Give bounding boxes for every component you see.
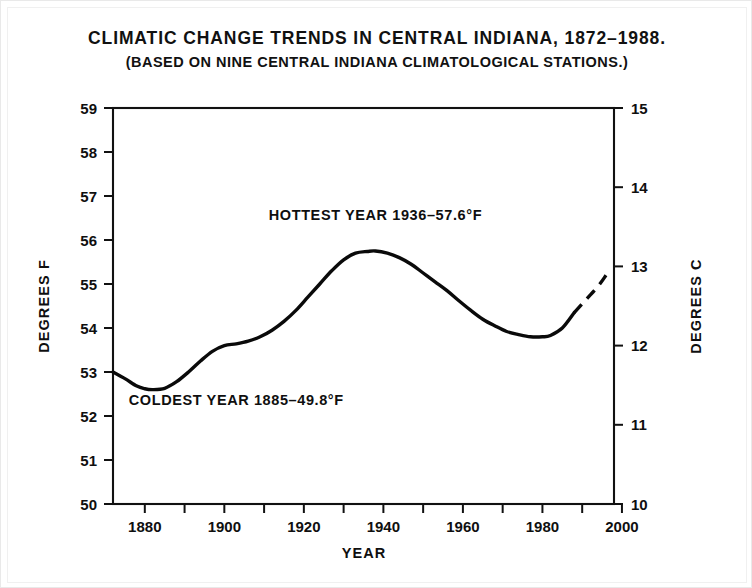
annotation-hottest-year: HOTTEST YEAR 1936–57.6°F <box>269 207 482 223</box>
x-axis-title: YEAR <box>342 545 387 561</box>
x-tick-label: 1920 <box>287 518 320 535</box>
y-tick-label-left: 55 <box>80 276 97 293</box>
climate-trend-chart: 1880190019201940196019802000 50515253545… <box>1 1 752 588</box>
y-tick-label-left: 56 <box>80 232 97 249</box>
y-tick-label-right: 12 <box>631 337 648 354</box>
x-tick-label: 1880 <box>128 518 161 535</box>
x-axis-tick-labels: 1880190019201940196019802000 <box>128 518 639 535</box>
y-axis-left-title: DEGREES F <box>36 259 52 353</box>
x-tick-label: 1900 <box>208 518 241 535</box>
y-tick-label-right: 14 <box>631 179 648 196</box>
y-tick-label-left: 51 <box>80 452 97 469</box>
trend-line-observed <box>113 251 574 390</box>
plot-frame <box>113 108 614 504</box>
y-tick-label-right: 11 <box>631 416 647 433</box>
y-tick-label-left: 50 <box>80 496 97 513</box>
y-tick-label-right: 13 <box>631 258 648 275</box>
y-tick-label-left: 54 <box>80 320 97 337</box>
y-axis-right-tick-labels: 101112131415 <box>631 100 648 513</box>
data-series-group <box>113 251 606 390</box>
y-tick-label-left: 52 <box>80 408 97 425</box>
y-tick-label-left: 58 <box>80 144 97 161</box>
x-tick-label: 1960 <box>446 518 479 535</box>
annotation-coldest-year: COLDEST YEAR 1885–49.8°F <box>129 392 344 408</box>
x-tick-label: 1940 <box>367 518 400 535</box>
y-axis-right-title: DEGREES C <box>688 258 704 353</box>
trend-line-projected <box>574 275 606 312</box>
y-axis-right-ticks <box>614 108 623 504</box>
axis-titles: DEGREES F DEGREES C YEAR <box>36 258 704 561</box>
chart-page: CLIMATIC CHANGE TRENDS IN CENTRAL INDIAN… <box>0 0 752 588</box>
x-tick-label: 2000 <box>605 518 638 535</box>
y-tick-label-left: 57 <box>80 188 97 205</box>
y-axis-left-ticks <box>104 108 113 504</box>
x-tick-label: 1980 <box>526 518 559 535</box>
y-tick-label-left: 53 <box>80 364 97 381</box>
y-axis-left-tick-labels: 50515253545556575859 <box>80 100 97 513</box>
y-tick-label-left: 59 <box>80 100 97 117</box>
x-axis-ticks <box>145 504 622 513</box>
y-tick-label-right: 15 <box>631 100 648 117</box>
y-tick-label-right: 10 <box>631 496 648 513</box>
